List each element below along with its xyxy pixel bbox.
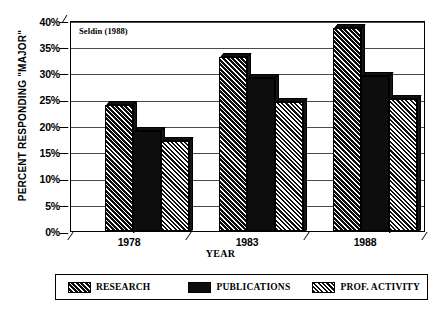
- bar-1983-publications: [247, 78, 275, 231]
- legend-item-research: RESEARCH: [68, 282, 150, 293]
- legend-swatch-research-icon: [68, 282, 91, 293]
- legend-label-publications: PUBLICATIONS: [216, 282, 290, 292]
- bar-front-face: [333, 28, 361, 231]
- gridline-35: [71, 48, 424, 49]
- x-tick-separator-right: [421, 232, 435, 240]
- legend-item-publications: PUBLICATIONS: [188, 282, 290, 293]
- bar-1978-publications: [133, 131, 161, 231]
- bar-front-face: [219, 57, 247, 231]
- bar-1983-prof-activity: [275, 102, 303, 231]
- y-tick-label-40: 40%: [26, 16, 60, 28]
- bar-chart-figure: PERCENT RESPONDING "MAJOR" 40% 35% 30% 2…: [0, 0, 441, 312]
- x-axis-title: YEAR: [0, 248, 441, 259]
- bar-front-face: [361, 76, 389, 232]
- chart-legend: RESEARCH PUBLICATIONS PROF. ACTIVITY: [55, 274, 428, 300]
- y-tick-label-15: 15%: [26, 147, 60, 159]
- bar-front-face: [105, 105, 133, 232]
- bar-front-face: [389, 99, 417, 231]
- source-annotation: Seldin (1988): [79, 26, 128, 36]
- x-tick-label-1983: 1983: [212, 236, 282, 248]
- bar-1978-research: [105, 105, 133, 232]
- legend-item-prof-activity: PROF. ACTIVITY: [312, 282, 420, 293]
- bar-front-face: [161, 141, 189, 231]
- y-tick-label-10: 10%: [26, 173, 60, 185]
- bar-side-face: [189, 138, 193, 232]
- bar-front-face: [247, 78, 275, 231]
- legend-label-prof-activity: PROF. ACTIVITY: [340, 282, 420, 292]
- plot-area: Seldin (1988): [70, 21, 425, 232]
- x-tick-separator-1: [185, 232, 199, 240]
- bar-1988-research: [333, 28, 361, 231]
- y-tick-label-0: 0%: [26, 226, 60, 238]
- y-tick-label-35: 35%: [26, 42, 60, 54]
- bar-1988-prof-activity: [389, 99, 417, 231]
- y-tick-label-5: 5%: [26, 200, 60, 212]
- y-tick-label-20: 20%: [26, 121, 60, 133]
- bar-side-face: [417, 96, 421, 232]
- legend-swatch-publications-icon: [188, 282, 211, 293]
- y-tick-label-25: 25%: [26, 94, 60, 106]
- y-tick-label-30: 30%: [26, 68, 60, 80]
- bar-front-face: [275, 102, 303, 231]
- bar-1978-prof-activity: [161, 141, 189, 231]
- x-tick-label-1978: 1978: [94, 236, 164, 248]
- gridline-40: [71, 22, 424, 23]
- legend-label-research: RESEARCH: [96, 282, 150, 292]
- bar-1983-research: [219, 57, 247, 231]
- x-tick-separator-left: [67, 232, 81, 240]
- x-tick-separator-2: [303, 232, 317, 240]
- legend-swatch-prof-activity-icon: [312, 282, 335, 293]
- bar-side-face: [303, 99, 307, 232]
- x-tick-label-1988: 1988: [330, 236, 400, 248]
- bar-1988-publications: [361, 76, 389, 232]
- bar-front-face: [133, 131, 161, 231]
